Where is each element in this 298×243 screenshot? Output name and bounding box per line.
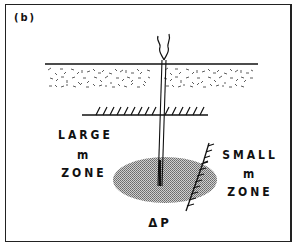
diagram-canvas: [0, 0, 298, 243]
small-zone-label-line1: SMALL: [220, 149, 280, 161]
panel-label: (b): [14, 12, 36, 24]
large-zone-label-line3: ZONE: [58, 167, 110, 179]
delta-p-label: ΔP: [140, 217, 180, 229]
stippled-overburden-layer: [48, 68, 253, 87]
large-zone-label-line1: LARGE: [58, 129, 110, 141]
wellhead-plume: [158, 34, 170, 60]
small-zone-label-line3: ZONE: [220, 186, 280, 198]
large-zone-label-line2: m: [58, 149, 110, 161]
small-zone-label-line2: m: [220, 168, 280, 180]
hatched-horizontal-boundary: [82, 107, 208, 115]
